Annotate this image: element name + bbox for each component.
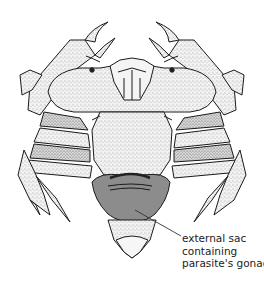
annotation-line-3: parasite's gonad [182, 257, 264, 270]
external-sac [92, 174, 170, 223]
right-walking-legs [172, 112, 246, 222]
left-eye [90, 68, 94, 72]
annotation-line-2: containing [182, 245, 264, 258]
right-eye [170, 68, 174, 72]
annotation-line-1: external sac [182, 232, 264, 245]
sternum [92, 112, 172, 175]
left-walking-legs [18, 112, 92, 222]
annotation-label: external sac containing parasite's gonad [182, 232, 264, 270]
